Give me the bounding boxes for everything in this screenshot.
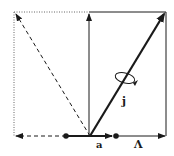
diagram-canvas (0, 0, 174, 156)
label-a: a (96, 140, 102, 150)
dashed-diagonal-arrow (16, 14, 90, 136)
vector-diagram: j a Λ (0, 0, 174, 156)
thick-j-arrow (90, 14, 164, 136)
label-lambda: Λ (134, 139, 143, 150)
label-j: j (122, 96, 126, 107)
